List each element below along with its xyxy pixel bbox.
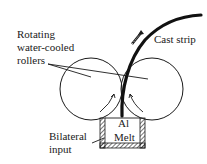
melt-label-line1: Al (118, 117, 129, 130)
rollers-label-line2: water-cooled (17, 41, 74, 54)
twin-roll-caster-diagram: Rotating water-cooled rollers Cast strip… (0, 0, 207, 164)
input-label-line2: input (49, 143, 72, 156)
cast-strip-label: Cast strip (154, 33, 196, 46)
rollers-label-line3: rollers (17, 54, 45, 67)
rollers-label-line1: Rotating (17, 28, 55, 41)
rotation-arrow-right-icon (129, 94, 143, 112)
diagram-graphics (0, 0, 207, 164)
input-label-line1: Bilateral (49, 130, 87, 143)
cast-strip (122, 15, 201, 116)
melt-label-line2: Melt (114, 131, 135, 144)
rotation-arrow-left-icon (100, 94, 115, 112)
